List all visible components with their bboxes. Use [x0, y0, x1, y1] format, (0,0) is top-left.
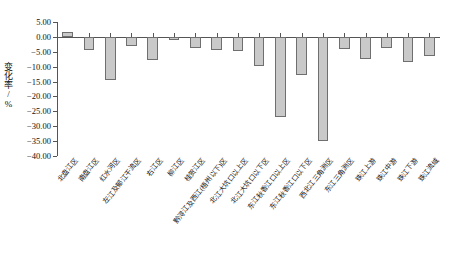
bar	[84, 37, 95, 50]
bar	[424, 37, 435, 56]
bar	[360, 37, 371, 59]
bar	[190, 37, 201, 48]
x-tick-label: 珠江下游	[397, 157, 420, 184]
bar	[62, 32, 73, 37]
bar	[339, 37, 350, 49]
y-tick-label: −5.00	[31, 48, 51, 57]
bar	[254, 37, 265, 66]
x-tick-label: 珠江流域	[418, 157, 441, 184]
bar	[147, 37, 158, 60]
bar	[211, 37, 222, 50]
x-tick-label: 柳江区	[167, 157, 186, 178]
y-tick	[53, 111, 57, 112]
y-axis-line	[57, 22, 58, 156]
y-tick-label: −40.00	[27, 152, 51, 161]
y-tick	[53, 22, 57, 23]
x-tick-label: 珠江上游	[354, 157, 377, 184]
y-tick	[53, 141, 57, 142]
y-tick-label: 5.00	[36, 18, 51, 27]
x-tick-label: 珠江中游	[376, 157, 399, 184]
bar	[318, 37, 329, 141]
y-tick-label: −10.00	[27, 62, 51, 71]
y-tick	[53, 126, 57, 127]
y-axis-title: 变化率/%	[2, 40, 16, 130]
bar	[275, 37, 286, 117]
bar	[296, 37, 307, 75]
y-tick	[53, 52, 57, 53]
y-tick	[53, 37, 57, 38]
bar	[105, 37, 116, 80]
y-tick-label: −30.00	[27, 122, 51, 131]
x-tick-label: 北盘江区	[56, 157, 79, 184]
bar-chart: 变化率/% 5.000.00−5.00−10.00−15.00−20.00−25…	[0, 0, 450, 263]
x-tick-label: 右江区	[146, 157, 165, 178]
plot-area: 5.000.00−5.00−10.00−15.00−20.00−25.00−30…	[57, 22, 440, 156]
y-tick-label: −25.00	[27, 107, 51, 116]
x-tick-label: 南盘江区	[78, 157, 101, 184]
bar	[233, 37, 244, 51]
y-tick-label: −20.00	[27, 92, 51, 101]
y-tick	[53, 82, 57, 83]
bar	[403, 37, 414, 62]
bar	[126, 37, 137, 46]
y-tick-label: −15.00	[27, 77, 51, 86]
x-axis-labels: 北盘江区南盘江区红水河区左江及郁江干流区右江区柳江区桂贺江区黔浔江及西江(梧州以…	[57, 157, 440, 263]
bar	[169, 37, 180, 41]
y-tick	[53, 96, 57, 97]
y-tick-label: 0.00	[36, 33, 51, 42]
y-tick-label: −35.00	[27, 137, 51, 146]
bar	[381, 37, 392, 49]
y-tick	[53, 67, 57, 68]
